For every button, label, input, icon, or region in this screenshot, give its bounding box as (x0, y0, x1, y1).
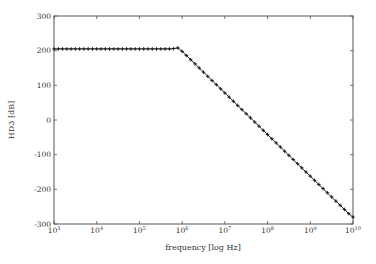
x-tick-label: 108 (261, 225, 274, 235)
plus-marker (61, 47, 65, 51)
plus-marker (108, 47, 112, 51)
x-tick-label: 104 (90, 225, 103, 235)
plus-marker (129, 47, 133, 51)
y-tick-label: 200 (37, 46, 52, 55)
plus-marker (125, 47, 129, 51)
plus-marker (99, 47, 103, 51)
plus-marker (82, 47, 86, 51)
plus-marker (74, 47, 78, 51)
plus-marker (69, 47, 73, 51)
plus-marker (138, 47, 142, 51)
x-tick-label: 109 (304, 225, 317, 235)
plus-marker (86, 47, 90, 51)
x-tick-label: 1010 (345, 225, 361, 235)
plus-marker (65, 47, 69, 51)
plus-marker (121, 47, 125, 51)
plus-marker (150, 47, 154, 51)
y-tick-label: -100 (34, 150, 51, 159)
plus-marker (159, 47, 163, 51)
plus-marker (168, 47, 172, 51)
plus-marker (95, 47, 99, 51)
x-axis-label: frequency [log Hz] (165, 243, 241, 252)
plus-marker (163, 47, 167, 51)
y-axis-ticks: 3002001000-100-200-300 (34, 12, 353, 229)
plot-frame (54, 16, 353, 224)
x-tick-label: 107 (218, 225, 231, 235)
y-tick-label: 300 (37, 12, 52, 21)
data-series-markers (52, 46, 355, 219)
y-tick-label: 100 (37, 81, 52, 90)
plus-marker (112, 47, 116, 51)
x-tick-label: 105 (133, 225, 146, 235)
y-tick-label: 0 (46, 116, 51, 125)
plus-marker (52, 47, 56, 51)
hd3-frequency-chart: 3002001000-100-200-300 10310410510610710… (0, 0, 376, 264)
x-tick-label: 106 (176, 225, 189, 235)
plus-marker (146, 47, 150, 51)
plus-marker (103, 47, 107, 51)
plus-marker (155, 47, 159, 51)
plus-marker (133, 47, 137, 51)
plus-marker (142, 47, 146, 51)
plus-marker (116, 47, 120, 51)
y-axis-label: HD3 [dB] (7, 101, 16, 139)
y-tick-label: -200 (34, 185, 51, 194)
plus-marker (78, 47, 82, 51)
plus-marker (91, 47, 95, 51)
plus-marker (56, 47, 60, 51)
plus-marker (172, 47, 176, 51)
x-tick-label: 103 (48, 225, 61, 235)
